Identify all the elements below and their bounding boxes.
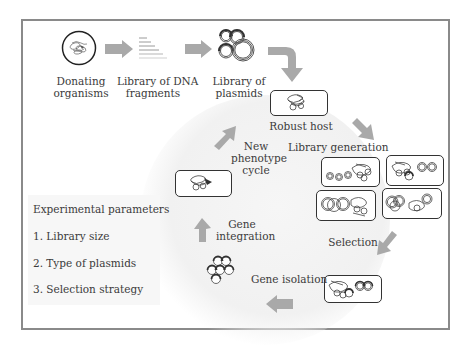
label-line: plasmids: [208, 87, 270, 99]
robust-host-box: [270, 90, 328, 116]
transformed-cell-icon: [317, 191, 374, 219]
host-cell-icon: [271, 91, 326, 114]
label-line: phenotype: [231, 152, 281, 164]
transformed-cell-icon: [387, 156, 442, 184]
library-clone-box-2: [386, 155, 444, 186]
transformed-cell-icon: [383, 189, 440, 217]
plasmid-library-label: Library of plasmids: [208, 75, 270, 99]
organism-circle-icon: [61, 30, 97, 66]
parameters-title: Experimental parameters: [33, 203, 169, 215]
dna-fragments-icon: [137, 36, 169, 66]
library-clone-box-3: [316, 190, 376, 221]
label-line: Donating: [52, 75, 110, 87]
gene-integration-label: Gene integration: [216, 218, 268, 242]
down-left-arrow-icon: [375, 231, 397, 259]
left-arrow-icon: [266, 295, 293, 317]
label-line: cycle: [231, 164, 281, 176]
label-line: Library of: [208, 75, 270, 87]
parameter-item: 3. Selection strategy: [33, 283, 143, 295]
right-arrow-icon: [185, 40, 212, 62]
selected-cell-icon: [325, 276, 380, 301]
selected-clone-box: [324, 275, 382, 303]
parameter-item: 1. Library size: [33, 230, 109, 242]
isolated-plasmids-icon: [205, 255, 241, 295]
right-arrow-icon: [105, 40, 133, 62]
selection-label: Selection: [328, 236, 378, 248]
label-line: integration: [216, 230, 268, 242]
transformed-cell-icon: [322, 158, 378, 185]
library-clone-box-1: [321, 157, 380, 187]
plasmid-library-icon: [218, 28, 258, 68]
robust-host-label: Robust host: [268, 120, 334, 132]
label-line: New: [231, 140, 281, 152]
label-line: organisms: [52, 87, 110, 99]
dna-fragments-label: Library of DNA fragments: [117, 75, 189, 99]
engineered-cell-icon: [176, 171, 230, 195]
library-clone-box-4: [382, 188, 442, 219]
engineered-host-box: [175, 170, 232, 197]
label-line: Gene: [216, 218, 268, 230]
donating-organisms-label: Donating organisms: [52, 75, 110, 99]
label-line: fragments: [117, 87, 189, 99]
label-line: Library of DNA: [117, 75, 189, 87]
up-arrow-icon: [193, 218, 211, 246]
library-generation-label: Library generation: [288, 141, 384, 153]
gene-isolation-label: Gene isolation: [251, 273, 319, 285]
new-phenotype-cycle-label: New phenotype cycle: [231, 140, 281, 176]
curved-down-arrow-icon: [268, 44, 308, 88]
parameter-item: 2. Type of plasmids: [33, 257, 136, 269]
